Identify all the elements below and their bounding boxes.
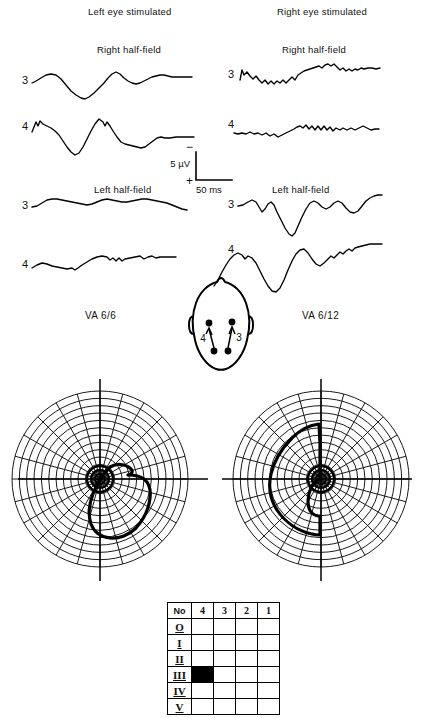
electrode-dot-lower-right bbox=[225, 348, 232, 355]
legend-cell-I-2 bbox=[236, 635, 258, 651]
legend-row: O bbox=[168, 619, 280, 635]
visual-field-chart-left bbox=[18, 382, 208, 577]
electrode-dot-upper-left bbox=[206, 320, 213, 327]
legend-cell-IV-1 bbox=[258, 683, 280, 699]
legend-cell-III-2 bbox=[236, 667, 258, 683]
scale-bar: − + 5 µV 50 ms bbox=[170, 140, 232, 195]
legend-cell-V-2 bbox=[236, 699, 258, 715]
legend-row: II bbox=[168, 651, 280, 667]
legend-cell-II-1 bbox=[258, 651, 280, 667]
legend-cell-I-3 bbox=[214, 635, 236, 651]
legend-cell-II-4 bbox=[192, 651, 214, 667]
trace-left-eye-rhf-ch4 bbox=[32, 119, 194, 155]
legend-row: V bbox=[168, 699, 280, 715]
trace-left-eye-lhf-ch4 bbox=[32, 256, 176, 270]
legend-table: No4321OIIIIIIIVV bbox=[167, 602, 280, 715]
legend-row-label-III: III bbox=[168, 667, 192, 683]
legend-cell-IV-2 bbox=[236, 683, 258, 699]
head-electrode-diagram: 4 3 bbox=[178, 276, 264, 376]
scale-time-label: 50 ms bbox=[196, 184, 222, 195]
legend-cell-V-1 bbox=[258, 699, 280, 715]
legend-row-label-V: V bbox=[168, 699, 192, 715]
legend-cell-I-1 bbox=[258, 635, 280, 651]
legend-row-label-II: II bbox=[168, 651, 192, 667]
legend-row: I bbox=[168, 635, 280, 651]
head-outline bbox=[193, 278, 249, 370]
legend-cell-O-2 bbox=[236, 619, 258, 635]
trace-left-eye-lhf-ch3 bbox=[32, 199, 187, 210]
visual-field-chart-right bbox=[222, 382, 412, 577]
legend-header-col-2: 2 bbox=[236, 603, 258, 619]
electrode-dot-upper-right bbox=[229, 319, 236, 326]
legend-cell-O-3 bbox=[214, 619, 236, 635]
legend-cell-I-4 bbox=[192, 635, 214, 651]
scale-polarity-minus: − bbox=[186, 140, 193, 154]
legend-cell-II-2 bbox=[236, 651, 258, 667]
legend-cell-O-1 bbox=[258, 619, 280, 635]
legend-row: III bbox=[168, 667, 280, 683]
figure-root: Left eye stimulated Right eye stimulated… bbox=[0, 0, 440, 718]
legend-cell-II-3 bbox=[214, 651, 236, 667]
legend-header-col-3: 3 bbox=[214, 603, 236, 619]
legend-row-label-O: O bbox=[168, 619, 192, 635]
electrode-dot-lower-left bbox=[211, 348, 218, 355]
legend-header-row: No4321 bbox=[168, 603, 280, 619]
scale-polarity-plus: + bbox=[186, 174, 193, 188]
legend-cell-V-4 bbox=[192, 699, 214, 715]
legend-row-label-I: I bbox=[168, 635, 192, 651]
legend-cell-III-3 bbox=[214, 667, 236, 683]
legend-cell-III-4 bbox=[192, 667, 214, 683]
trace-left-eye-rhf-ch3 bbox=[32, 72, 192, 99]
trace-right-eye-rhf-ch3 bbox=[240, 64, 380, 84]
va-label-right: VA 6/12 bbox=[302, 310, 339, 321]
trace-right-eye-rhf-ch4 bbox=[234, 125, 379, 137]
legend-row-label-IV: IV bbox=[168, 683, 192, 699]
legend-header-col-1: 1 bbox=[258, 603, 280, 619]
trace-right-eye-lhf-ch3 bbox=[238, 195, 382, 236]
scale-amplitude-label: 5 µV bbox=[170, 158, 190, 169]
legend-cell-V-3 bbox=[214, 699, 236, 715]
legend-cell-IV-4 bbox=[192, 683, 214, 699]
legend-header-col-4: 4 bbox=[192, 603, 214, 619]
electrode-arrow-4 bbox=[209, 329, 214, 348]
va-label-left: VA 6/6 bbox=[85, 310, 116, 321]
legend-cell-III-1 bbox=[258, 667, 280, 683]
legend-cell-IV-3 bbox=[214, 683, 236, 699]
electrode-label-3: 3 bbox=[236, 332, 242, 343]
legend-cell-O-4 bbox=[192, 619, 214, 635]
legend-row: IV bbox=[168, 683, 280, 699]
legend-header-no: No bbox=[168, 603, 192, 619]
vep-traces-panel: − + 5 µV 50 ms bbox=[0, 0, 440, 300]
electrode-label-4: 4 bbox=[200, 333, 206, 344]
